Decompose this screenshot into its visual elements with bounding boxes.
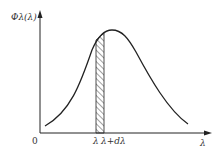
x-axis-arrow-icon [204, 131, 212, 136]
origin-label: 0 [32, 136, 38, 146]
y-axis-label: Φλ(λ) [11, 12, 37, 22]
strip-label-left: λ [93, 136, 99, 146]
y-axis-arrow-icon [38, 10, 43, 18]
distribution-curve [45, 30, 188, 126]
hatched-strip [96, 33, 104, 133]
strip-label-right: λ+dλ [101, 136, 126, 146]
spectral-distribution-diagram [0, 0, 218, 154]
x-axis-label: λ [200, 138, 206, 148]
